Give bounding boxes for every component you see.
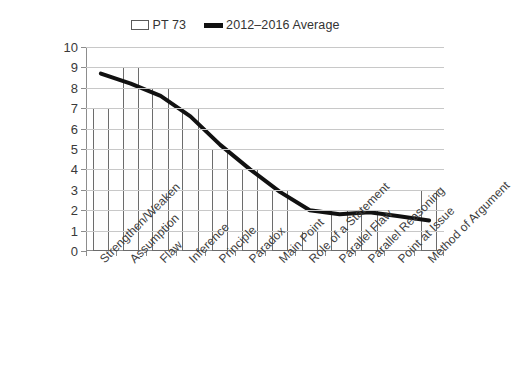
x-axis-labels: Strengthen/WeakenAssumptionFlawInference… — [0, 0, 471, 375]
chart-container: PT 73 2012–2016 Average 012345678910 Str… — [0, 0, 471, 375]
